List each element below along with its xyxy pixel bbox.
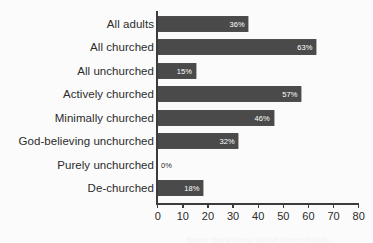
category-label: Minimally churched [55,112,154,124]
chart-row: All unchurched15% [0,59,373,83]
bar-value-label: 15% [177,66,192,75]
category-label: All adults [107,18,154,30]
category-label: All unchurched [77,65,154,77]
x-axis-tick [308,203,309,208]
cropped-title-text: CHAPTER 2 [108,0,167,2]
x-axis-tick-label: 30 [227,210,239,222]
x-axis-tick-label: 10 [177,210,189,222]
chart-row: De-churched18% [0,177,373,201]
category-label: De-churched [88,182,154,194]
cropped-footnote-text: Source: Barna Group national survey of a… [186,237,330,243]
chart-row: All churched63% [0,36,373,60]
x-axis-tick-label: 40 [252,210,264,222]
cropped-title-strip: CHAPTER 2 [0,0,373,9]
x-axis-tick-label: 80 [353,210,365,222]
bar-value-label: 46% [255,113,270,122]
x-axis-tick-label: 20 [202,210,214,222]
x-axis-tick [283,203,284,208]
bar-value-label: 0% [161,160,172,169]
category-label: All churched [90,41,154,53]
chart-row: God-believing unchurched32% [0,130,373,154]
category-label: God-believing unchurched [19,135,154,147]
chart-row: Purely unchurched0% [0,153,373,177]
bar-value-label: 18% [184,184,199,193]
y-axis-line [156,11,158,203]
chart-row: Actively churched57% [0,83,373,107]
bar[interactable] [158,87,301,102]
bar-value-label: 57% [282,90,297,99]
x-axis-tick [358,203,359,208]
x-axis-tick [333,203,334,208]
x-axis-tick [232,203,233,208]
category-label: Purely unchurched [57,159,154,171]
cropped-footnote-strip: Source: Barna Group national survey of a… [0,237,373,243]
x-axis-tick [157,203,158,208]
x-axis-tick-label: 60 [302,210,314,222]
bar-value-label: 63% [297,43,312,52]
chart-row: Minimally churched46% [0,106,373,130]
x-axis-tick [182,203,183,208]
x-axis-tick-label: 50 [277,210,289,222]
plot-area: All adults36%All churched63%All unchurch… [0,9,373,205]
chart-row: All adults36% [0,12,373,36]
bar[interactable] [158,40,316,55]
bar-value-label: 32% [219,137,234,146]
bar-chart: All adults36%All churched63%All unchurch… [0,9,373,234]
category-label: Actively churched [63,88,154,100]
x-axis-tick [258,203,259,208]
x-axis-tick-label: 70 [327,210,339,222]
bar-value-label: 36% [229,19,244,28]
x-axis-tick-label: 0 [155,210,161,222]
x-axis-tick [207,203,208,208]
